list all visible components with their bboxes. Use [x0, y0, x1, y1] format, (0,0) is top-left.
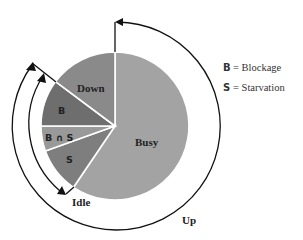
legend-text-blockage: = Blockage	[233, 62, 282, 73]
label-down: Down	[77, 82, 105, 94]
up-arrowhead-left	[26, 62, 36, 71]
pie-chart	[41, 52, 189, 200]
idle-arrowhead-bottom	[57, 186, 66, 195]
state-pie-diagram: Busy Down B B ∩ S S Idle Up B = Blockage…	[0, 0, 303, 240]
label-busy: Busy	[135, 136, 159, 148]
label-starvation: S	[66, 154, 73, 165]
label-blockage: B	[58, 105, 65, 116]
idle-arrowhead-top	[37, 73, 46, 83]
legend-text-starvation: = Starvation	[233, 82, 285, 93]
legend-symbol-blockage: B	[223, 62, 231, 73]
label-up: Up	[182, 214, 196, 226]
legend: B = Blockage S = Starvation	[223, 62, 285, 93]
legend-symbol-starvation: S	[223, 82, 230, 93]
label-idle: Idle	[72, 196, 90, 208]
label-blockage-and-starvation: B ∩ S	[45, 132, 74, 143]
